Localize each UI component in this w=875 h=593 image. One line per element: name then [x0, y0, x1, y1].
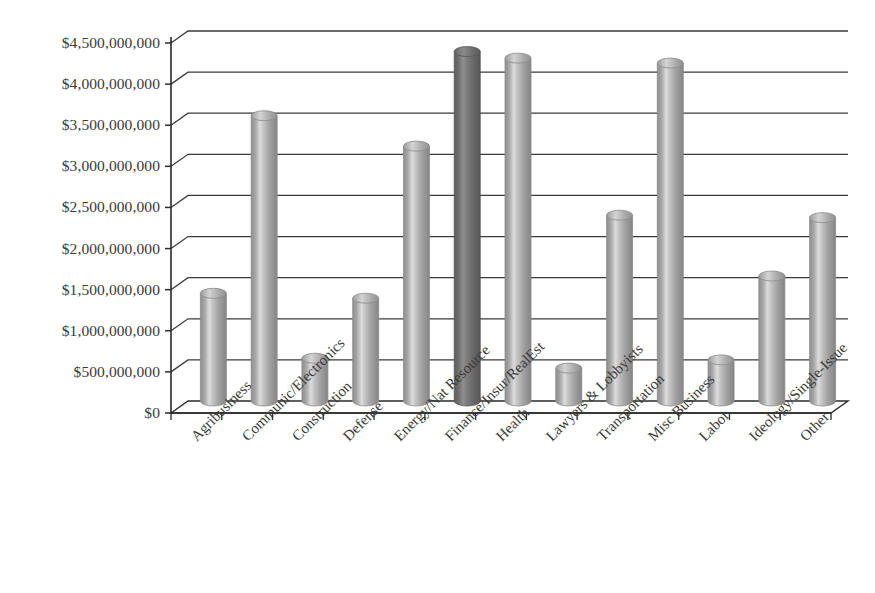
x-axis-category-label: Finance/Insur/RealEst [442, 339, 547, 444]
x-axis-category-label: Ideology/Single-Issue [747, 340, 851, 444]
x-axis-category-label: Defense [341, 399, 386, 444]
x-axis-category-label: Health [493, 405, 532, 444]
x-axis-category-label: Energy/Nat Resource [391, 343, 492, 444]
x-axis-category-labels: AgribusinessCommunic/ElectronicsConstruc… [0, 0, 875, 593]
x-axis-category-label: Labor [696, 408, 732, 444]
x-axis-category-label: Other [798, 409, 833, 444]
bar-chart: $4,500,000,000$4,000,000,000$3,500,000,0… [0, 0, 875, 593]
x-axis-category-label: Lawyers & Lobbyists [544, 341, 647, 444]
